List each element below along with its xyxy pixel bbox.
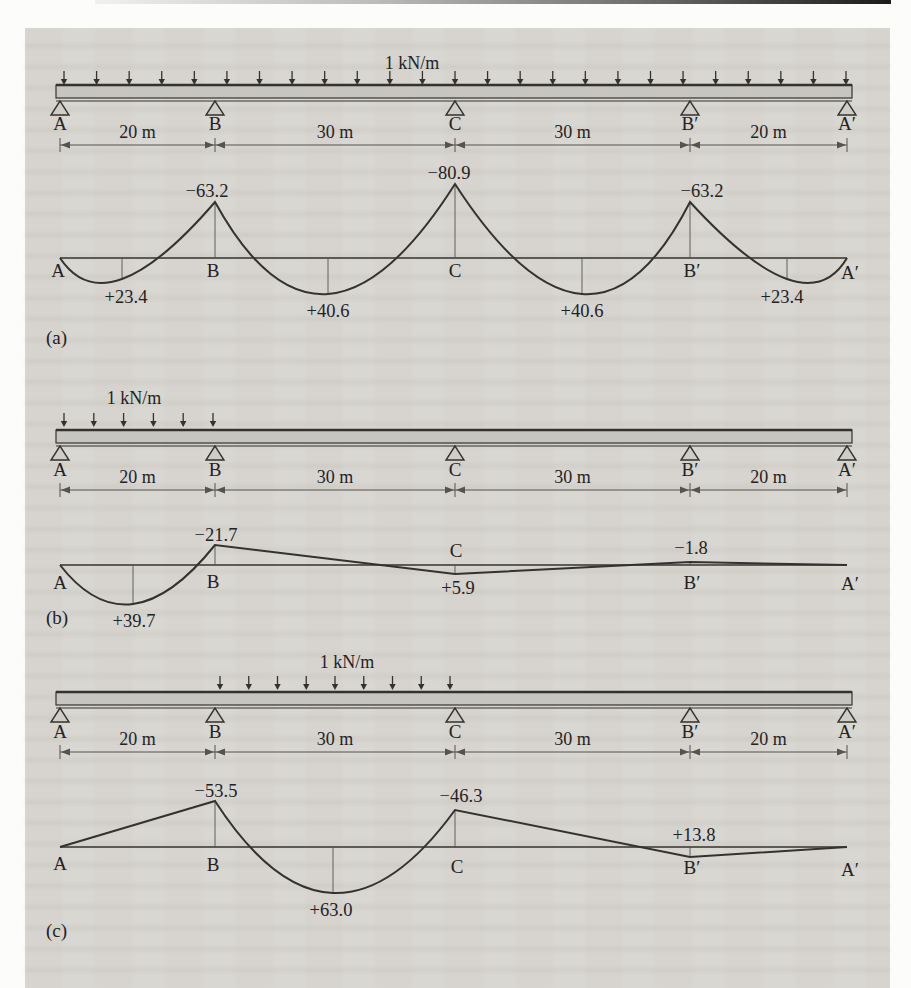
load-arrow-head — [180, 421, 186, 427]
load-arrow-head — [361, 684, 367, 690]
support-label: A′ — [838, 721, 856, 742]
dimension-arrow-right — [837, 142, 846, 149]
support-label: B′ — [682, 113, 699, 134]
span-length-label: 30 m — [317, 729, 354, 749]
support-label: A — [53, 113, 67, 134]
figure-a-caption: (a) — [46, 328, 67, 347]
moment-value-label: +23.4 — [761, 287, 804, 307]
moment-value-label: +63.0 — [310, 900, 353, 920]
span-length-label: 20 m — [119, 467, 156, 487]
support-C — [446, 446, 464, 460]
load-arrow-head — [217, 684, 223, 690]
dimension-arrow-left — [456, 142, 465, 149]
support-label: B′ — [682, 459, 699, 480]
beam — [56, 692, 852, 705]
diagram-support-label: B — [207, 854, 220, 875]
dimension-arrow-right — [445, 487, 454, 494]
diagram-support-label: A′ — [841, 859, 859, 880]
dimension-arrow-left — [216, 487, 225, 494]
beam — [56, 85, 852, 98]
support-B′ — [681, 446, 699, 460]
dimension-arrow-right — [837, 487, 846, 494]
load-arrow-head — [91, 421, 97, 427]
support-A′ — [838, 446, 856, 460]
support-A — [51, 708, 69, 722]
moment-value-label: +23.4 — [105, 287, 148, 307]
support-label: C — [449, 459, 462, 480]
dimension-arrow-right — [680, 487, 689, 494]
moment-value-label: −80.9 — [428, 163, 471, 183]
load-arrow-head — [332, 684, 338, 690]
dimension-arrow-right — [205, 749, 214, 756]
span-length-label: 20 m — [119, 122, 156, 142]
dimension-arrow-left — [61, 749, 70, 756]
diagram-support-label: C — [450, 540, 463, 561]
diagram-support-label: A — [51, 260, 65, 281]
support-label: C — [449, 113, 462, 134]
span-length-label: 30 m — [554, 467, 591, 487]
diagram-support-label: C — [451, 856, 464, 877]
load-arrow-head — [210, 421, 216, 427]
span-length-label: 20 m — [750, 122, 787, 142]
figure-b-caption: (b) — [46, 608, 68, 627]
dimension-arrow-right — [205, 142, 214, 149]
support-label: A — [53, 459, 67, 480]
dimension-arrow-right — [680, 142, 689, 149]
support-label: A — [53, 721, 67, 742]
diagram-support-label: B — [207, 260, 220, 281]
span-length-label: 20 m — [750, 467, 787, 487]
span-length-label: 30 m — [554, 122, 591, 142]
beam-diagrams-svg: 1 kN/mABCB′A′20 m30 m30 m20 m−63.2−80.9−… — [0, 0, 911, 988]
moment-value-label: −21.7 — [195, 525, 238, 545]
load-arrow-head — [447, 684, 453, 690]
diagram-support-label: B′ — [684, 857, 701, 878]
dimension-arrow-left — [61, 487, 70, 494]
load-arrow-head — [303, 684, 309, 690]
dimension-arrow-right — [205, 487, 214, 494]
dimension-arrow-left — [216, 142, 225, 149]
moment-value-label: −46.3 — [440, 786, 483, 806]
moment-value-label: +39.7 — [113, 611, 156, 631]
support-C — [446, 708, 464, 722]
load-arrow-head — [274, 684, 280, 690]
dimension-arrow-left — [456, 487, 465, 494]
diagram-support-label: A — [53, 853, 67, 874]
support-label: B — [209, 113, 222, 134]
moment-value-label: +13.8 — [673, 825, 716, 845]
support-A — [51, 446, 69, 460]
diagram-support-label: B′ — [684, 572, 701, 593]
span-length-label: 20 m — [119, 729, 156, 749]
figure-a: 1 kN/mABCB′A′20 m30 m30 m20 m−63.2−80.9−… — [51, 53, 859, 321]
moment-value-label: +40.6 — [307, 301, 350, 321]
dimension-arrow-right — [445, 142, 454, 149]
support-B′ — [681, 708, 699, 722]
dimension-arrow-left — [691, 749, 700, 756]
load-arrow-head — [120, 421, 126, 427]
diagram-support-label: A — [53, 572, 67, 593]
dimension-arrow-right — [837, 749, 846, 756]
support-B — [206, 446, 224, 460]
support-label: A′ — [838, 113, 856, 134]
load-intensity-label: 1 kN/m — [107, 388, 162, 408]
moment-value-label: −53.5 — [195, 781, 238, 801]
moment-value-label: −1.8 — [674, 538, 708, 558]
moment-value-label: −63.2 — [186, 181, 229, 201]
dimension-arrow-left — [691, 142, 700, 149]
beam — [56, 430, 852, 443]
moment-value-label: +40.6 — [561, 301, 604, 321]
dimension-arrow-left — [216, 749, 225, 756]
diagram-support-label: A′ — [841, 262, 859, 283]
diagram-support-label: C — [449, 260, 462, 281]
diagram-support-label: B — [207, 571, 220, 592]
diagram-support-label: A′ — [841, 573, 859, 594]
support-label: C — [449, 721, 462, 742]
load-arrow-head — [246, 684, 252, 690]
load-arrow-head — [61, 421, 67, 427]
figure-c: 1 kN/mABCB′A′20 m30 m30 m20 m−53.5+63.0−… — [51, 652, 859, 920]
load-intensity-label: 1 kN/m — [385, 53, 440, 73]
load-arrow-head — [418, 684, 424, 690]
support-label: B — [209, 721, 222, 742]
dimension-arrow-right — [680, 749, 689, 756]
dimension-arrow-right — [445, 749, 454, 756]
span-length-label: 20 m — [750, 729, 787, 749]
